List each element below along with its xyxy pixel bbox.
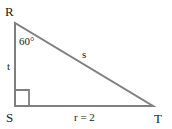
right-angle-marker xyxy=(15,90,29,106)
angle-label: 60° xyxy=(19,36,34,47)
vertex-label-s: S xyxy=(6,111,13,124)
side-label-s: s xyxy=(82,49,86,60)
vertex-label-r: R xyxy=(5,5,14,18)
vertex-label-t: T xyxy=(154,112,162,125)
triangle-figure xyxy=(0,0,172,129)
side-label-r: r = 2 xyxy=(74,112,95,123)
triangle-rst xyxy=(15,23,153,106)
side-label-t: t xyxy=(7,61,10,72)
